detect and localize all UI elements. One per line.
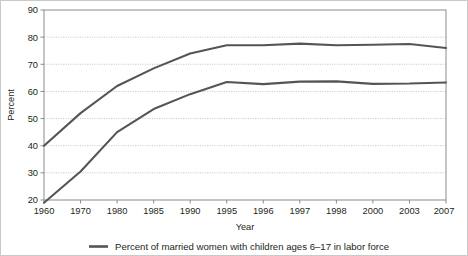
x-tickmarks [44,200,446,204]
y-tick-label-70: 70 [28,60,38,70]
legend-label: Percent of married women with children a… [115,241,389,252]
y-tick-label-30: 30 [28,168,38,178]
plot-background [44,10,446,200]
x-tick-label-2000: 2000 [363,206,384,216]
x-tick-label-1970: 1970 [70,206,91,216]
y-tick-label-80: 80 [28,33,38,43]
y-tick-labels: 90 80 70 60 50 40 30 20 [28,5,38,205]
x-tick-label-1996: 1996 [253,206,274,216]
chart-figure: 90 80 70 60 50 40 30 20 Percent [0,0,468,256]
y-tick-label-90: 90 [28,5,38,15]
x-tick-label-1995: 1995 [216,206,237,216]
x-tick-label-2007: 2007 [434,206,455,216]
x-tick-label-2003: 2003 [399,206,420,216]
x-tick-label-1960: 1960 [34,206,55,216]
y-tickmarks [41,10,45,200]
x-tick-label-1980: 1980 [107,206,128,216]
x-tick-label-1985: 1985 [143,206,164,216]
x-tick-labels: 1960 1970 1980 1985 1990 1995 1996 1997 … [34,206,455,216]
y-tick-label-40: 40 [28,141,38,151]
y-tick-label-60: 60 [28,87,38,97]
y-axis-title: Percent [6,89,16,121]
x-axis-title: Year [236,222,255,232]
y-tick-label-20: 20 [28,195,38,205]
x-tick-label-1997: 1997 [289,206,310,216]
x-tick-label-1998: 1998 [326,206,347,216]
line-chart: 90 80 70 60 50 40 30 20 Percent [1,1,468,256]
x-tick-label-1990: 1990 [180,206,201,216]
legend: Percent of married women with children a… [89,241,389,252]
y-tick-label-50: 50 [28,114,38,124]
